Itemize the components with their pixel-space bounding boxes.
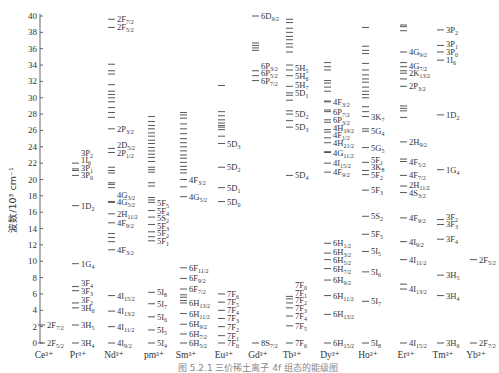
ion-column: 3H63H43H53F43F33F21G41D21I63P03P13P2Tm³⁺: [432, 25, 459, 360]
y-tick-label: 32: [28, 76, 37, 86]
y-tick-label: 26: [28, 125, 38, 135]
level-label: 2H11/2: [409, 180, 430, 191]
ion-column: 7F67F57F47F37F27F17F05D45D35D25D15H75H65…: [283, 19, 309, 360]
ion-column: 2F5/22F7/2Ce³⁺: [35, 320, 64, 360]
level-label: 5I5: [371, 246, 381, 257]
ion-name: Eu³⁺: [215, 350, 233, 360]
level-label: 4G7/2: [409, 61, 427, 72]
level-label: 6D9/2: [261, 11, 279, 22]
y-tick-label: 16: [28, 207, 38, 217]
level-label: 4F9/2: [409, 213, 426, 224]
level-label: 1D2: [446, 110, 459, 121]
energy-level-diagram: 0246810121416182022242628303234363840 波数…: [0, 0, 499, 373]
level-label: 5F5: [157, 198, 169, 209]
level-label: 6F7/2: [189, 284, 206, 295]
figure-caption: 图 5.2.1 三价稀土离子 4f 组态的能级图: [178, 362, 338, 373]
y-tick-label: 4: [33, 305, 38, 315]
level-label: 5I8: [371, 338, 381, 349]
ion-name: Sm³⁺: [176, 350, 197, 360]
ion-column: 4I9/24I11/24I13/24I15/24F3/24F9/22H11/24…: [104, 14, 138, 360]
y-tick-label: 28: [28, 109, 38, 119]
level-label: 2F5/2: [479, 255, 496, 266]
level-label: 2P3/2: [409, 81, 426, 92]
level-label: 3P2: [81, 148, 93, 159]
level-label: 6H11/2: [189, 309, 210, 320]
level-label: 3H6: [446, 338, 459, 349]
level-label: 7F0: [295, 280, 307, 291]
level-label: 8S7/2: [261, 338, 278, 349]
level-label: 5F5: [371, 229, 383, 240]
level-label: 5D4: [295, 170, 308, 181]
y-tick-label: 22: [28, 158, 37, 168]
level-label: 4I9/2: [409, 237, 424, 248]
level-label: 1G4: [81, 259, 94, 270]
ion-name: Tb³⁺: [283, 350, 301, 360]
ion-column: 5I45I55I65I75I85F15F25F35S25F45F5pm³⁺: [144, 117, 169, 360]
level-label: 6H13/2: [189, 298, 210, 309]
level-label: 7F6: [295, 338, 307, 349]
level-label: 5D1: [227, 183, 240, 194]
level-label: 4I11/2: [409, 255, 427, 266]
level-label: 5D2: [295, 109, 308, 120]
level-label: 5I6: [371, 267, 381, 278]
y-tick-label: 20: [28, 175, 38, 185]
y-tick-label: 24: [28, 142, 38, 152]
y-tick-label: 2: [33, 322, 38, 332]
level-label: 5D3: [295, 122, 308, 133]
y-tick-label: 12: [28, 240, 37, 250]
level-label: 4F3/2: [333, 97, 350, 108]
level-label: 6H15/2: [333, 338, 354, 349]
level-label: 5I4: [157, 338, 167, 349]
level-label: 1D2: [81, 201, 94, 212]
y-axis-title: 波数/10³ cm⁻¹: [7, 167, 18, 233]
level-label: 3F2: [81, 295, 93, 306]
level-label: 5I7: [157, 299, 167, 310]
y-axis: 0246810121416182022242628303234363840: [28, 11, 43, 348]
ion-name: Tm³⁺: [432, 350, 453, 360]
level-label: 2D5/2: [117, 140, 135, 151]
level-label: 5F3: [371, 185, 383, 196]
level-label: 3H4: [81, 338, 94, 349]
level-label: 5I7: [371, 296, 381, 307]
level-label: 3F4: [81, 278, 93, 289]
level-label: 3P2: [446, 25, 458, 36]
ion-name: pm³⁺: [144, 350, 164, 360]
level-label: 4I9/2: [117, 338, 132, 349]
level-label: 4I15/2: [333, 158, 351, 169]
level-label: 4G9/2: [409, 47, 427, 58]
level-label: 4I11/2: [117, 322, 135, 333]
ion-column: 2F7/22F5/2Yb³⁺: [466, 255, 495, 360]
level-label: 4I13/2: [117, 306, 135, 317]
level-label: 5D2: [227, 162, 240, 173]
level-label: 5G4: [371, 126, 384, 137]
level-label: 6H11/2: [333, 291, 354, 302]
level-label: 3H5: [81, 320, 94, 331]
y-tick-label: 6: [33, 289, 38, 299]
level-label: 4F3/2: [189, 175, 206, 186]
ion-column: 6H15/26H13/26H11/26H9/26H7/26H5/26H3/26H…: [320, 63, 354, 360]
level-label: 2F7/2: [479, 338, 496, 349]
level-label: 5F1: [371, 155, 383, 166]
y-tick-label: 38: [28, 27, 38, 37]
level-label: 2H9/2: [409, 137, 427, 148]
level-label: 2P3/2: [117, 124, 134, 135]
ion-column: 5I85I75I65I55F55S25F35F23K85F15G55G43K7H…: [358, 27, 384, 360]
level-label: 4G5/2: [189, 192, 207, 203]
level-label: 3K7: [371, 112, 384, 123]
level-label: 3P1: [446, 39, 458, 50]
ion-name: Gd³⁺: [248, 350, 267, 360]
ion-column: 3H43H53H63F23F33F41G41D23P03P11I63P2Pr³⁺: [70, 148, 95, 360]
level-label: 2F7/2: [47, 320, 64, 331]
ion-column: 4I15/24I13/24I11/24I9/24F9/24S3/22H11/24…: [398, 25, 430, 360]
level-label: 5H7: [295, 80, 308, 91]
level-label: 3H5: [446, 270, 459, 281]
level-label: 4I15/2: [409, 338, 427, 349]
level-label: 4F3/2: [117, 245, 134, 256]
level-label: 5D0: [227, 197, 240, 208]
level-label: 4G11/2: [333, 148, 354, 159]
level-label: 6P7/2: [333, 107, 350, 118]
ion-column: 7F07F17F27F37F47F57F65D05D15D25D3Eu³⁺: [215, 85, 241, 360]
level-label: 2H11/2: [117, 209, 138, 220]
ion-name: Nd³⁺: [104, 350, 123, 360]
diagram-canvas: 0246810121416182022242628303234363840 波数…: [0, 0, 499, 373]
